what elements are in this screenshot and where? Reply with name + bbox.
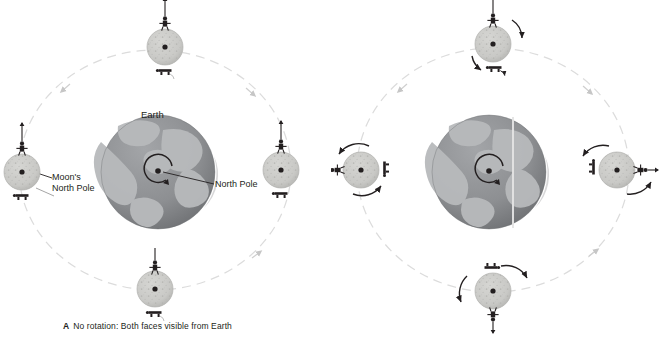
panel-b-synchronous-rotation: Earth BSynchronous rotation: Only one fa… [331,0,662,339]
astronaut-upright-icon [487,307,498,334]
pole-dot-icon [490,288,495,293]
pole-dot-icon [486,168,492,174]
pole-dot-icon [19,169,24,174]
astronaut-prone-icon [13,194,29,200]
moons-north-pole-label: Moon's North Pole [52,172,95,193]
astronaut-prone-icon [156,69,174,79]
earth [425,115,549,229]
pole-dot-icon [490,41,495,46]
moons-north-pole-label-line2: North Pole [52,183,95,193]
moon-bottom [137,248,173,321]
earth-label: Earth [141,109,164,120]
pole-dot-icon [152,286,157,291]
panel-a-svg [0,0,331,339]
panel-b-graphics [331,0,662,339]
astronaut-prone-icon [589,159,595,175]
panel-a-caption-text: No rotation: Both faces visible from Ear… [73,321,232,331]
astronaut-upright-icon [159,0,170,31]
panel-a-caption: ANo rotation: Both faces visible from Ea… [63,321,232,331]
orbit-direction-arrow-icon [232,79,243,89]
astronaut-upright-icon [633,164,659,175]
astronaut-upright-icon [275,120,286,154]
astronaut-upright-icon [149,248,160,275]
moon-bottom [459,263,527,334]
panel-b-svg [331,0,662,339]
moon-left [331,144,389,196]
pole-dot-icon [278,167,283,172]
panel-a-letter: A [63,321,69,331]
panel-a-no-rotation: Earth Moon's North Pole North Pole ANo r… [0,0,331,339]
astronaut-prone-icon [485,263,501,269]
pole-dot-icon [162,44,167,49]
astronaut-prone-icon [383,162,389,178]
pole-dot-icon [614,167,619,172]
panel-a-graphics [0,0,331,339]
astronaut-prone-icon [146,311,164,321]
astronaut-prone-icon [272,192,288,198]
moon-top [472,0,522,76]
astronaut-upright-icon [487,0,498,28]
moons-north-pole-label-line1: Moon's [52,172,81,182]
astronaut-upright-icon [16,122,27,156]
pole-dot-icon [155,168,161,174]
north-pole-label: North Pole [215,179,258,190]
figure-canvas: Earth Moon's North Pole North Pole ANo r… [0,0,662,339]
earth [94,115,218,229]
moon-right [263,120,299,198]
moon-top [147,0,183,79]
pole-dot-icon [358,167,363,172]
astronaut-upright-icon [331,164,345,175]
moon-left [4,122,40,200]
moon-right [583,145,659,194]
astronaut-prone-icon [486,66,505,76]
